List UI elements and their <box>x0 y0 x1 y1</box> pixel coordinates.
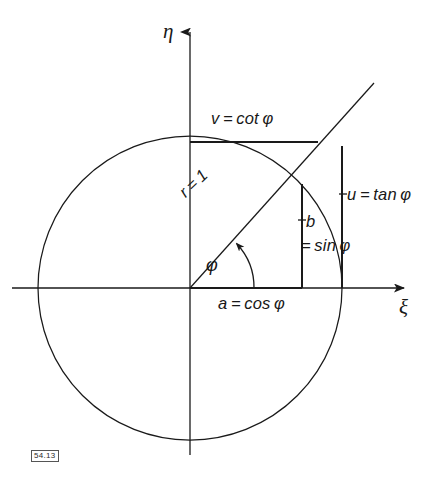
figure-number: 54.13 <box>34 451 56 460</box>
cosine-label: a = cos φ <box>218 295 285 312</box>
sine-expression-label: = sin φ <box>301 237 351 254</box>
sine-variable-label: b <box>306 213 315 230</box>
figure-number-box: 54.13 <box>31 450 59 462</box>
angle-arc <box>237 244 254 288</box>
figure-container: η ξ v = cot φ u = tan φ a = cos φ b = si… <box>0 0 431 477</box>
tangent-label: u = tan φ <box>347 186 411 203</box>
diagram-canvas <box>0 0 431 477</box>
cotangent-label: v = cot φ <box>211 110 273 127</box>
eta-axis-label: η <box>163 20 174 42</box>
xi-axis-label: ξ <box>399 296 408 318</box>
angle-label: φ <box>206 256 218 275</box>
